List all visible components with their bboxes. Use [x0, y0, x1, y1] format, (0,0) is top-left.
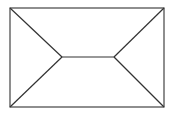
- bottom-right-diagonal: [114, 57, 164, 107]
- diagram-canvas: [0, 0, 172, 123]
- top-left-diagonal: [10, 8, 62, 57]
- top-right-diagonal: [114, 8, 164, 57]
- bottom-left-diagonal: [10, 57, 62, 107]
